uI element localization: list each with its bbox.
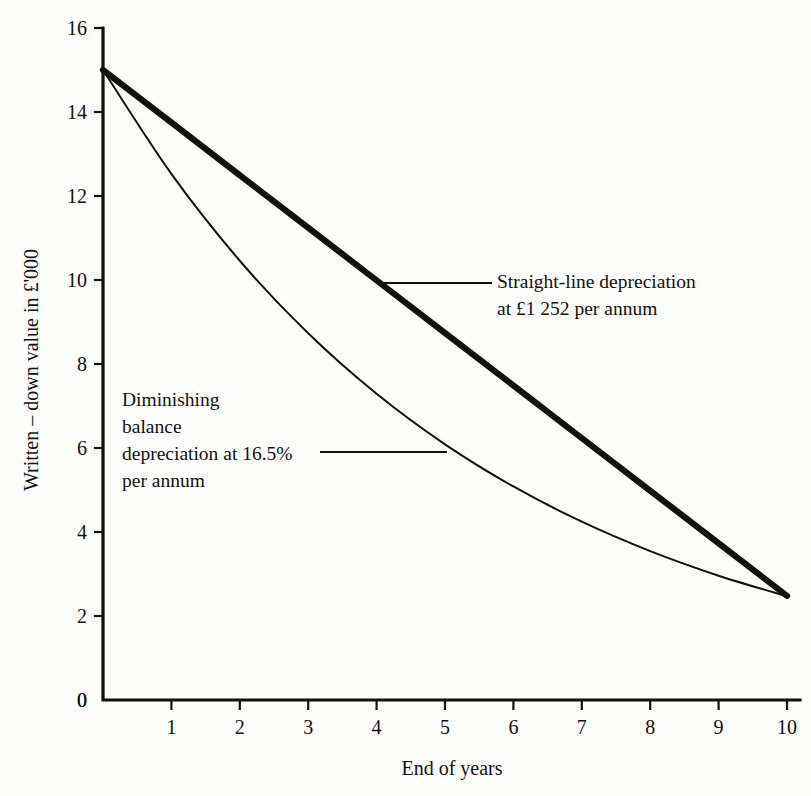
- x-tick-label: 3: [303, 716, 313, 738]
- x-tick-label: 1: [166, 716, 176, 738]
- x-tick-label: 4: [372, 716, 382, 738]
- axis-spines: [103, 28, 800, 700]
- x-tick-label: 7: [577, 716, 587, 738]
- diminishing-balance-annotation-line: Diminishing: [122, 389, 220, 410]
- straight-line-annotation-line: at £1 252 per annum: [497, 298, 657, 319]
- x-tick-label: 6: [508, 716, 518, 738]
- straight-line-series: [103, 70, 787, 596]
- diminishing-balance-annotation-line: per annum: [122, 470, 205, 491]
- y-tick-label: 8: [77, 353, 87, 375]
- y-tick-label: 16: [67, 17, 87, 39]
- x-tick-label: 8: [645, 716, 655, 738]
- depreciation-line-chart: 0246810121416 012345678910 Straight-line…: [0, 0, 811, 796]
- x-tick-label: 10: [777, 716, 797, 738]
- straight-line-annotation-line: Straight-line depreciation: [497, 271, 696, 292]
- x-origin-label: 0: [77, 689, 87, 711]
- x-tick-label: 9: [714, 716, 724, 738]
- chart-page: 0246810121416 012345678910 Straight-line…: [0, 0, 811, 796]
- x-tick-label: 5: [440, 716, 450, 738]
- diminishing-balance-annotation-line: balance: [122, 416, 182, 437]
- y-tick-label: 6: [77, 437, 87, 459]
- x-axis-tick-labels: 012345678910: [77, 689, 797, 738]
- y-tick-label: 2: [77, 605, 87, 627]
- y-axis-title: Written – down value in £'000: [20, 249, 42, 491]
- y-tick-label: 10: [67, 269, 87, 291]
- x-axis-title: End of years: [401, 757, 502, 780]
- y-tick-label: 12: [67, 185, 87, 207]
- x-tick-label: 2: [235, 716, 245, 738]
- y-axis-tick-labels: 0246810121416: [67, 17, 87, 711]
- diminishing-balance-annotation-line: depreciation at 16.5%: [122, 443, 293, 464]
- y-tick-label: 4: [77, 521, 87, 543]
- y-tick-label: 14: [67, 101, 87, 123]
